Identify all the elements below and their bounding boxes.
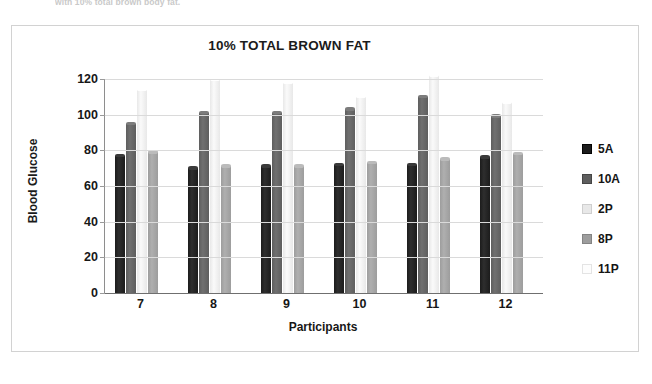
bar-cap — [513, 152, 523, 156]
gridline — [105, 257, 543, 258]
x-axis-tick-label: 9 — [250, 297, 323, 311]
bar-cap — [261, 164, 271, 168]
y-axis-tick-label: 120 — [56, 72, 98, 86]
legend-item-8p[interactable]: 8P — [582, 224, 642, 254]
bar-cap — [345, 107, 355, 111]
bar-cap — [115, 154, 125, 158]
legend-item-2p[interactable]: 2P — [582, 194, 642, 224]
bar-5a-10[interactable] — [334, 165, 344, 293]
bar-5a-12[interactable] — [480, 157, 490, 293]
y-axis-tick-label: 0 — [56, 286, 98, 300]
bar-10a-10[interactable] — [345, 109, 355, 293]
y-axis-tick — [100, 293, 105, 294]
legend-label: 8P — [598, 232, 613, 246]
bar-cap — [126, 122, 136, 126]
legend-label: 11P — [598, 262, 619, 276]
bar-2p-12[interactable] — [502, 102, 512, 293]
bar-cap — [283, 81, 293, 85]
bar-cap — [294, 164, 304, 168]
y-axis-tick-label: 100 — [56, 108, 98, 122]
plot-area — [104, 79, 543, 294]
x-axis-title: Participants — [104, 320, 542, 334]
y-axis-tick — [100, 79, 105, 80]
y-axis-tick-label: 40 — [56, 215, 98, 229]
bar-10a-9[interactable] — [272, 113, 282, 293]
gridline — [105, 222, 543, 223]
legend-item-11p[interactable]: 11P — [582, 254, 642, 284]
y-axis-tick-label: 80 — [56, 143, 98, 157]
bar-10a-7[interactable] — [126, 124, 136, 293]
legend-swatch-8p-icon — [582, 234, 592, 244]
bar-cap — [429, 73, 439, 77]
bar-10a-11[interactable] — [418, 97, 428, 293]
chart-frame: 10% TOTAL BROWN FAT Blood Glucose 020406… — [11, 25, 639, 352]
bar-5a-11[interactable] — [407, 165, 417, 293]
x-axis-tick-label: 10 — [323, 297, 396, 311]
bar-2p-10[interactable] — [356, 97, 366, 293]
y-axis-tick-label: 20 — [56, 250, 98, 264]
y-axis-tick — [100, 115, 105, 116]
bar-cap — [356, 95, 366, 99]
bar-cap — [188, 166, 198, 170]
x-axis-tick-label: 8 — [177, 297, 250, 311]
bar-cap — [334, 163, 344, 167]
plot-wrapper: Blood Glucose 020406080100120 789101112 … — [12, 26, 640, 353]
bar-cap — [221, 164, 231, 168]
bar-10a-8[interactable] — [199, 113, 209, 293]
legend-swatch-2p-icon — [582, 204, 592, 214]
legend-item-5a[interactable]: 5A — [582, 134, 642, 164]
bar-10a-12[interactable] — [491, 116, 501, 293]
gridline — [105, 79, 543, 80]
bar-cap — [407, 163, 417, 167]
bar-2p-11[interactable] — [429, 75, 439, 293]
x-axis-tick-labels: 789101112 — [104, 297, 542, 311]
legend-swatch-11p-icon — [582, 264, 592, 274]
x-axis-tick-label: 7 — [104, 297, 177, 311]
bar-cap — [440, 157, 450, 161]
x-axis-tick-label: 12 — [469, 297, 542, 311]
bar-8p-10[interactable] — [367, 163, 377, 293]
y-axis-tick-label: 60 — [56, 179, 98, 193]
page-caption: with 10% total brown body fat. — [55, 0, 355, 8]
gridline — [105, 150, 543, 151]
y-axis-tick-labels: 020406080100120 — [56, 79, 98, 293]
x-axis-tick-label: 11 — [396, 297, 469, 311]
y-axis-tick — [100, 257, 105, 258]
y-axis-title: Blood Glucose — [26, 116, 40, 246]
bar-8p-11[interactable] — [440, 159, 450, 293]
bar-cap — [418, 95, 428, 99]
y-axis-tick — [100, 222, 105, 223]
bar-cap — [502, 100, 512, 104]
legend-item-10a[interactable]: 10A — [582, 164, 642, 194]
bar-8p-12[interactable] — [513, 154, 523, 293]
bar-cap — [480, 155, 490, 159]
bar-cap — [367, 161, 377, 165]
bar-5a-7[interactable] — [115, 156, 125, 293]
legend-label: 10A — [598, 172, 620, 186]
legend-label: 5A — [598, 142, 613, 156]
legend-label: 2P — [598, 202, 613, 216]
y-axis-tick — [100, 186, 105, 187]
gridline — [105, 186, 543, 187]
bar-cap — [137, 88, 147, 92]
y-axis-tick — [100, 150, 105, 151]
legend-swatch-5a-icon — [582, 144, 592, 154]
bar-2p-7[interactable] — [137, 90, 147, 293]
chart-legend: 5A10A2P8P11P — [582, 134, 642, 284]
gridline — [105, 115, 543, 116]
legend-swatch-10a-icon — [582, 174, 592, 184]
